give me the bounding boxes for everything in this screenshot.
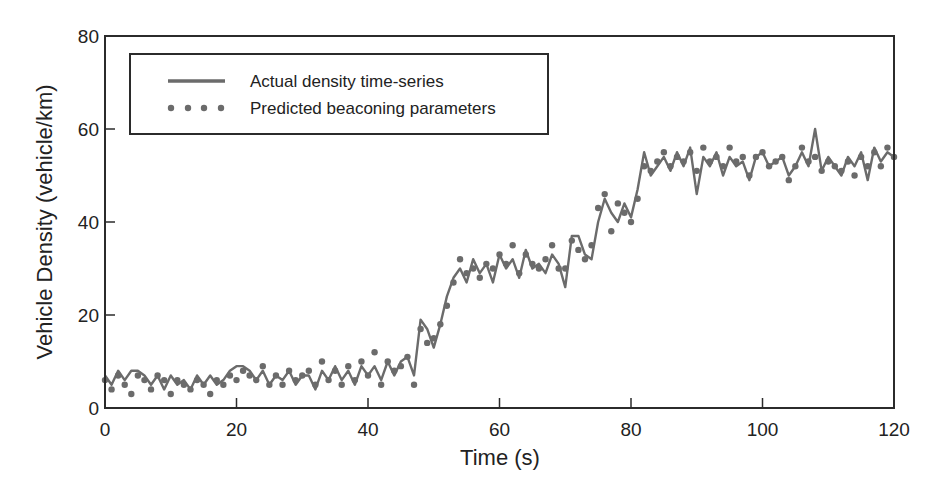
data-point-predicted	[266, 382, 272, 388]
data-point-predicted	[884, 144, 890, 150]
data-point-predicted	[759, 149, 765, 155]
data-point-predicted	[391, 368, 397, 374]
data-point-predicted	[273, 372, 279, 378]
data-point-predicted	[319, 358, 325, 364]
data-point-predicted	[549, 242, 555, 248]
data-point-predicted	[766, 163, 772, 169]
data-point-predicted	[490, 265, 496, 271]
data-point-predicted	[207, 391, 213, 397]
data-point-predicted	[562, 265, 568, 271]
series-line-actual	[105, 129, 894, 389]
data-point-predicted	[779, 154, 785, 160]
legend-label-actual: Actual density time-series	[250, 72, 444, 91]
data-point-predicted	[345, 363, 351, 369]
x-tick-label: 20	[226, 419, 247, 440]
data-point-predicted	[352, 377, 358, 383]
data-point-predicted	[661, 149, 667, 155]
data-point-predicted	[450, 279, 456, 285]
data-point-predicted	[865, 163, 871, 169]
data-point-predicted	[181, 382, 187, 388]
x-tick-label: 80	[620, 419, 641, 440]
data-point-predicted	[799, 144, 805, 150]
data-point-predicted	[444, 303, 450, 309]
data-point-predicted	[713, 154, 719, 160]
data-point-predicted	[818, 168, 824, 174]
data-point-predicted	[371, 349, 377, 355]
data-point-predicted	[621, 210, 627, 216]
data-point-predicted	[595, 205, 601, 211]
legend-box	[130, 54, 548, 134]
data-point-predicted	[871, 149, 877, 155]
data-point-predicted	[240, 368, 246, 374]
data-point-predicted	[694, 168, 700, 174]
x-tick-label: 60	[489, 419, 510, 440]
data-point-predicted	[858, 154, 864, 160]
data-point-predicted	[838, 168, 844, 174]
data-point-predicted	[431, 335, 437, 341]
data-point-predicted	[135, 372, 141, 378]
data-point-predicted	[424, 340, 430, 346]
data-point-predicted	[378, 382, 384, 388]
data-point-predicted	[851, 172, 857, 178]
data-point-predicted	[509, 242, 515, 248]
data-point-predicted	[786, 177, 792, 183]
data-point-predicted	[687, 149, 693, 155]
data-point-predicted	[260, 363, 266, 369]
data-point-predicted	[463, 270, 469, 276]
data-point-predicted	[253, 377, 259, 383]
data-point-predicted	[753, 154, 759, 160]
data-point-predicted	[417, 326, 423, 332]
data-point-predicted	[628, 219, 634, 225]
data-point-predicted	[542, 256, 548, 262]
y-tick-label: 40	[78, 212, 99, 233]
data-point-predicted	[214, 377, 220, 383]
data-point-predicted	[292, 377, 298, 383]
data-point-predicted	[312, 382, 318, 388]
data-point-predicted	[325, 377, 331, 383]
data-point-predicted	[845, 158, 851, 164]
data-point-predicted	[477, 275, 483, 281]
data-point-predicted	[411, 382, 417, 388]
data-point-predicted	[680, 158, 686, 164]
data-point-predicted	[648, 168, 654, 174]
data-point-predicted	[161, 377, 167, 383]
x-tick-label: 0	[100, 419, 111, 440]
data-point-predicted	[108, 386, 114, 392]
data-point-predicted	[306, 368, 312, 374]
data-point-predicted	[878, 163, 884, 169]
data-point-predicted	[187, 386, 193, 392]
data-point-predicted	[398, 363, 404, 369]
data-point-predicted	[523, 251, 529, 257]
data-point-predicted	[772, 158, 778, 164]
data-point-predicted	[832, 163, 838, 169]
y-tick-label: 20	[78, 305, 99, 326]
data-point-predicted	[654, 158, 660, 164]
legend: Actual density time-series Predicted bea…	[130, 54, 548, 134]
data-point-predicted	[700, 144, 706, 150]
density-chart: 020406080100120020406080 Time (s) Vehicl…	[0, 0, 942, 502]
y-tick-label: 60	[78, 119, 99, 140]
data-point-predicted	[496, 251, 502, 257]
data-point-predicted	[582, 256, 588, 262]
data-point-predicted	[503, 261, 509, 267]
y-axis-title: Vehicle Density (vehicle/km)	[32, 84, 57, 359]
data-point-predicted	[634, 196, 640, 202]
data-point-predicted	[279, 382, 285, 388]
data-point-predicted	[115, 372, 121, 378]
data-point-predicted	[707, 158, 713, 164]
data-point-predicted	[168, 391, 174, 397]
data-point-predicted	[128, 391, 134, 397]
data-point-predicted	[365, 372, 371, 378]
data-point-predicted	[555, 265, 561, 271]
x-axis-title: Time (s)	[460, 445, 540, 470]
data-point-predicted	[740, 154, 746, 160]
data-point-predicted	[733, 158, 739, 164]
data-point-predicted	[641, 163, 647, 169]
data-point-predicted	[588, 242, 594, 248]
data-point-predicted	[470, 265, 476, 271]
data-point-predicted	[246, 372, 252, 378]
y-tick-label: 0	[88, 398, 99, 419]
data-point-predicted	[154, 372, 160, 378]
data-point-predicted	[825, 158, 831, 164]
data-point-predicted	[457, 256, 463, 262]
